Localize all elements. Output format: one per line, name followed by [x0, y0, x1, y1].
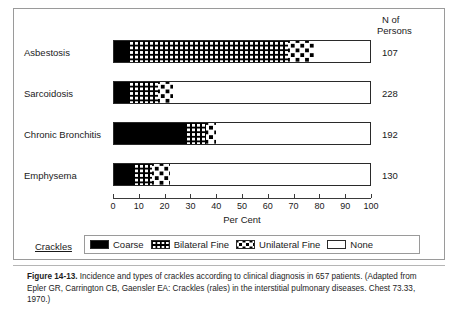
legend-item-label: None — [350, 239, 373, 250]
stacked-bar-emphysema — [113, 163, 371, 186]
x-axis-tick — [165, 194, 166, 198]
unilateral-fine-swatch-icon — [236, 240, 255, 249]
bar-segment-bilateral-fine — [134, 164, 152, 185]
x-axis-tick — [216, 194, 217, 198]
row-category-label: Chronic Bronchitis — [24, 129, 110, 140]
x-axis-tick — [268, 194, 269, 198]
legend-title: Crackles — [35, 241, 72, 252]
x-axis-line: 0 10 20 30 40 50 60 70 80 90 100 — [113, 198, 371, 199]
row-category-label: Emphysema — [24, 170, 110, 181]
bar-segment-bilateral-fine — [186, 123, 206, 144]
x-axis-tick-label: 90 — [340, 201, 350, 211]
legend-item-none: None — [327, 239, 373, 250]
table-row: Emphysema 130 — [0, 163, 457, 187]
x-axis-tick — [113, 194, 114, 198]
stacked-bar-chronic-bronchitis — [113, 122, 371, 145]
x-axis-title: Per Cent — [113, 214, 371, 225]
x-axis-tick-label: 40 — [211, 201, 221, 211]
legend-item-label: Unilateral Fine — [259, 239, 320, 250]
stacked-bar-asbestosis — [113, 40, 371, 63]
bilateral-fine-swatch-icon — [151, 240, 170, 249]
legend-item-bilateral-fine: Bilateral Fine — [151, 239, 229, 250]
x-axis-tick-label: 0 — [110, 201, 115, 211]
x-axis-tick-label: 60 — [263, 201, 273, 211]
legend: Coarse Bilateral Fine Unilateral Fine No… — [84, 235, 420, 254]
x-axis-tick — [190, 194, 191, 198]
x-axis-tick — [294, 194, 295, 198]
bar-segment-unilateral-fine — [206, 123, 216, 144]
bar-segment-coarse — [114, 123, 186, 144]
figure-container: N of Persons Asbestosis 107 Sarcoidosis … — [0, 0, 457, 317]
x-axis-tick-label: 20 — [160, 201, 170, 211]
x-axis-tick-label: 80 — [314, 201, 324, 211]
x-axis-tick — [242, 194, 243, 198]
n-of-persons-header: N of Persons — [377, 14, 437, 36]
table-row: Chronic Bronchitis 192 — [0, 122, 457, 146]
bar-segment-unilateral-fine — [158, 82, 173, 103]
x-axis-tick-label: 70 — [289, 201, 299, 211]
row-n-value: 107 — [382, 47, 398, 58]
figure-caption-label: Figure 14-13. — [27, 272, 78, 281]
bar-segment-none — [216, 123, 370, 144]
x-axis-tick — [319, 194, 320, 198]
x-axis-tick-label: 50 — [237, 201, 247, 211]
legend-item-coarse: Coarse — [90, 239, 144, 250]
legend-item-label: Coarse — [113, 239, 144, 250]
coarse-swatch-icon — [90, 240, 109, 249]
bar-segment-coarse — [114, 82, 129, 103]
x-axis-tick — [371, 194, 372, 198]
bar-segment-none — [314, 41, 370, 62]
row-n-value: 130 — [382, 170, 398, 181]
x-axis-tick — [139, 194, 140, 198]
table-row: Sarcoidosis 228 — [0, 81, 457, 105]
figure-caption: Figure 14-13. Incidence and types of cra… — [13, 265, 445, 309]
bar-segment-none — [170, 164, 370, 185]
x-axis-tick-label: 30 — [185, 201, 195, 211]
bar-segment-coarse — [114, 164, 134, 185]
bar-segment-bilateral-fine — [129, 41, 288, 62]
legend-item-unilateral-fine: Unilateral Fine — [236, 239, 320, 250]
bar-segment-coarse — [114, 41, 129, 62]
bar-segment-unilateral-fine — [152, 164, 170, 185]
x-axis-tick-label: 10 — [134, 201, 144, 211]
row-category-label: Sarcoidosis — [24, 88, 110, 99]
row-n-value: 192 — [382, 129, 398, 140]
row-category-label: Asbestosis — [24, 47, 110, 58]
x-axis-tick-label: 100 — [363, 201, 378, 211]
none-swatch-icon — [327, 240, 346, 249]
table-row: Asbestosis 107 — [0, 40, 457, 64]
bar-segment-bilateral-fine — [129, 82, 157, 103]
figure-caption-text: Incidence and types of crackles accordin… — [27, 272, 417, 304]
bar-segment-unilateral-fine — [288, 41, 314, 62]
x-axis-tick — [345, 194, 346, 198]
n-of-persons-header-line2: Persons — [377, 25, 437, 36]
n-of-persons-header-line1: N of — [377, 14, 437, 25]
legend-item-label: Bilateral Fine — [174, 239, 229, 250]
stacked-bar-sarcoidosis — [113, 81, 371, 104]
bar-segment-none — [173, 82, 370, 103]
row-n-value: 228 — [382, 88, 398, 99]
